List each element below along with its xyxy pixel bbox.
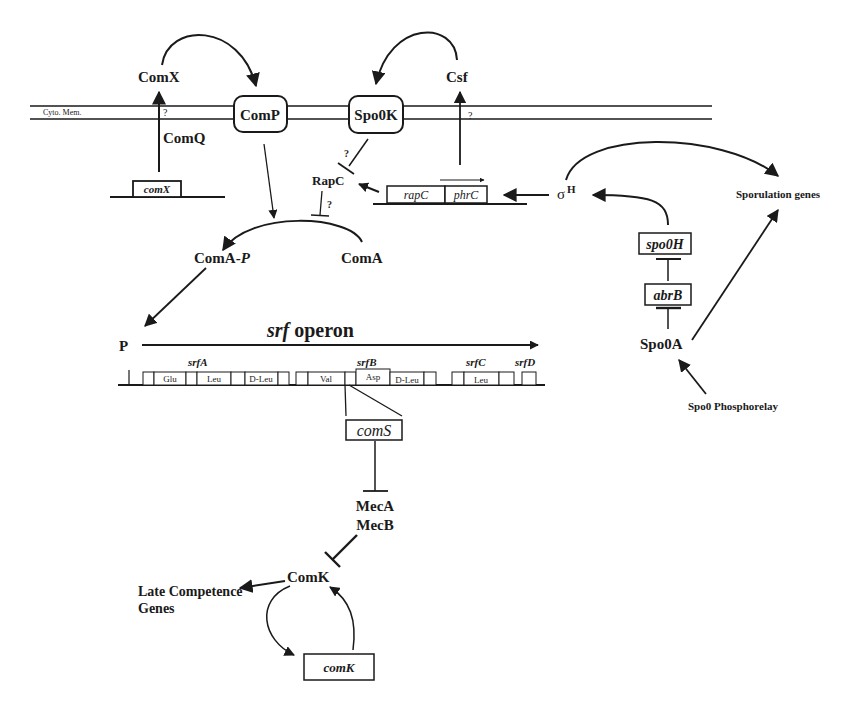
spo0k-receptor: Spo0K ? [338,32,457,174]
srfd-module [522,372,536,385]
rapc-gene-to-protein-arrow [359,184,379,192]
srf-operon-title: srf operon [266,319,354,342]
comk-to-late-genes-arrow [240,581,285,588]
srfb-label: srfB [356,356,377,368]
srfb-modules: Val Asp D-Leu [296,369,436,385]
module-label: D-Leu [395,375,419,385]
spo0a-to-sporulation-arrow [692,210,778,340]
csf-to-spo0k-arrow [376,32,457,84]
spo0h-gene-label: spo0H [645,237,684,252]
spo0-phosphorelay-label: Spo0 Phosphorelay [688,400,778,412]
abrb-gene-label: abrB [654,288,683,303]
spo0k-inhibits-rapc [349,139,368,166]
late-competence-label-1: Late Competence [138,584,243,599]
membrane-label: Cyto. Mem. [43,108,81,117]
question-mark: ? [468,110,473,121]
module-label: Leu [207,374,221,384]
mecb-label: MecB [356,517,393,533]
rapc-gene-label: rapC [404,188,430,202]
csf-label: Csf [446,69,469,85]
module-label: Val [320,374,332,384]
sigmah-to-sporulation-arrow [566,142,778,180]
coma-module: ComA-P ComA [145,221,383,326]
comp-to-coma-arrow [264,144,274,218]
comp-receptor: ComP [234,96,287,218]
coma-p-label: ComA-P [194,250,251,266]
module-label: Glu [163,374,177,384]
regulatory-network-diagram: Cyto. Mem. ComX ? ComQ comX ComP Spo0K ?… [0,0,860,714]
csf-module: Csf ? [446,69,473,165]
comk-module: ComK Late Competence Genes comK [138,569,374,680]
rapc-module: RapC ? rapC phrC [311,173,549,216]
module-label: Leu [474,375,488,385]
comq-label: ComQ [163,130,206,146]
sigma-h-label: σH [557,183,576,202]
comx-gene-label: comX [144,183,171,195]
question-mark: ? [344,148,349,159]
srfa-modules: Glu Leu D-Leu [143,372,289,385]
rapc-inhibits-coma [320,191,322,215]
meca-label: MecA [356,498,394,514]
mec-inhibits-comk [332,535,357,560]
rapc-protein-label: RapC [312,173,345,188]
promoter-label: P [119,338,128,354]
comx-protein-label: ComX [138,69,180,85]
phrc-gene-label: phrC [453,188,480,202]
comk-gene-label: comK [323,660,355,675]
sporulation-genes-label: Sporulation genes [736,188,821,200]
question-mark: ? [163,107,168,118]
srf-operon: P srf operon srfA srfB srfC srfD Glu Leu… [118,319,545,416]
phosphorelay-to-spo0a-arrow [679,360,706,394]
coma-p-to-promoter-arrow [145,268,206,326]
coma-label: ComA [341,250,383,266]
comk-protein-label: ComK [287,569,330,585]
comk-to-comk-gene-arrow [267,586,294,655]
srfd-label: srfD [514,356,535,368]
module-label: D-Leu [249,374,273,384]
question-mark: ? [327,199,332,210]
spo0h-to-sigmah-arrow [593,195,668,225]
sporulation-cascade: spo0H abrB Spo0A Spo0 Phosphorelay [639,210,778,412]
module-label: Asp [366,372,381,382]
coms-module: comS MecA MecB [325,420,402,567]
spo0k-label: Spo0K [354,107,398,123]
late-competence-label-2: Genes [138,601,175,616]
coms-gene-label: comS [357,422,392,439]
srfc-modules: Leu [452,372,514,385]
spo0a-label: Spo0A [640,336,683,352]
sigma-h-module: σH Sporulation genes [557,142,821,225]
comk-gene-to-comk-arrow [330,587,354,650]
coma-phosphorylation-arrow [223,221,362,250]
comp-label: ComP [240,107,280,123]
srfc-label: srfC [465,356,486,368]
srfa-label: srfA [187,356,208,368]
